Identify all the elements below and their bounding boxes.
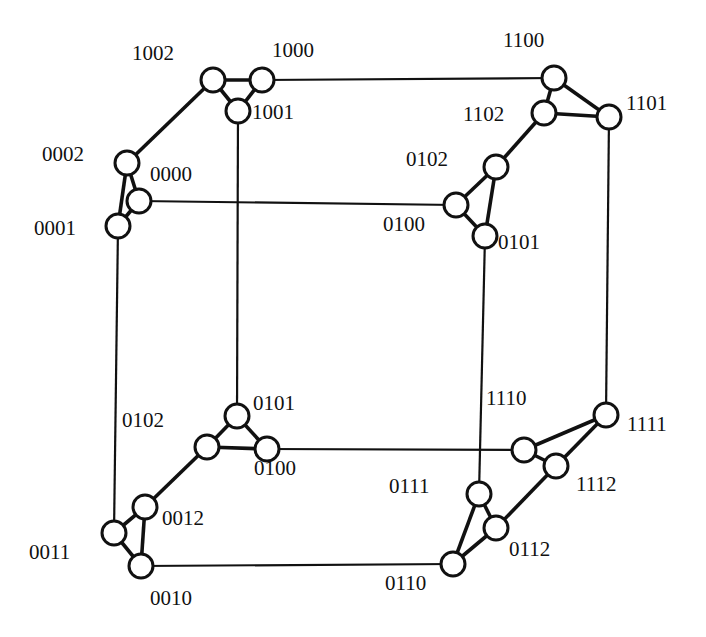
node-label-n0002: 0002 (42, 142, 84, 166)
node-label-n0000: 0000 (150, 162, 192, 186)
node-b0111 (467, 482, 491, 506)
node-label-n0102: 0102 (406, 147, 448, 171)
node-label-b0112: 0112 (509, 537, 550, 561)
node-n1002 (201, 68, 225, 92)
cube-edge (267, 449, 524, 450)
node-label-n0101: 0101 (498, 230, 540, 254)
node-label-b1112: 1112 (576, 472, 616, 496)
cube-edges-thick (127, 80, 556, 528)
node-n0101 (473, 224, 497, 248)
cube-edge (114, 226, 118, 533)
node-label-b0110: 0110 (385, 571, 426, 595)
node-label-n1101: 1101 (626, 91, 667, 115)
node-label-b1111: 1111 (627, 412, 667, 436)
node-n1102 (532, 101, 556, 125)
node-n0100 (444, 193, 468, 217)
cube-edge (479, 236, 485, 494)
node-b1112 (544, 454, 568, 478)
cube-edge (141, 564, 453, 566)
node-n1001 (226, 99, 250, 123)
node-label-n0001: 0001 (34, 216, 76, 240)
node-label-b0100: 0100 (254, 456, 296, 480)
node-label-n1001: 1001 (252, 100, 294, 124)
cube-edge (606, 117, 609, 415)
node-label-b0012: 0012 (162, 506, 204, 530)
node-label-n0100: 0100 (383, 212, 425, 236)
node-label-b0102: 0102 (122, 408, 164, 432)
node-layer (102, 66, 621, 578)
node-b1110 (512, 438, 536, 462)
node-label-b0010: 0010 (150, 586, 192, 610)
node-label-b0111: 0111 (389, 474, 429, 498)
node-label-n1102: 1102 (463, 102, 504, 126)
cycle-edges (114, 78, 609, 566)
node-n1100 (542, 66, 566, 90)
node-b0112 (484, 516, 508, 540)
node-b0101 (225, 404, 249, 428)
node-label-b0101: 0101 (253, 391, 295, 415)
cube-edges-thin (114, 78, 609, 566)
node-b0012 (133, 495, 157, 519)
node-label-n1002: 1002 (132, 41, 174, 65)
node-n0102 (484, 155, 508, 179)
node-b0010 (129, 554, 153, 578)
node-n0001 (106, 214, 130, 238)
node-label-n1100: 1100 (503, 28, 544, 52)
node-label-b1110: 1110 (486, 386, 526, 410)
cube-edge (237, 111, 238, 416)
node-b1111 (594, 403, 618, 427)
cube-edge-diagonal (127, 80, 213, 163)
node-n0002 (115, 151, 139, 175)
cube-edge (139, 201, 456, 205)
node-n0000 (127, 189, 151, 213)
node-label-n1000: 1000 (272, 38, 314, 62)
node-b0110 (441, 552, 465, 576)
node-n1101 (597, 105, 621, 129)
cube-edge (262, 78, 554, 80)
node-n1000 (250, 68, 274, 92)
node-b0011 (102, 521, 126, 545)
node-label-b0011: 0011 (29, 540, 70, 564)
cube-connected-cycles-diagram: 1002100010010002000000011100110211010102… (0, 0, 706, 637)
node-b0102 (195, 435, 219, 459)
